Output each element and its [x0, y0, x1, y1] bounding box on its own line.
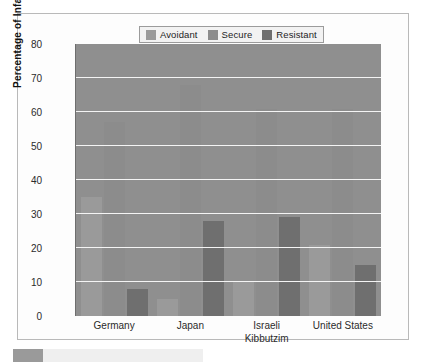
y-tick-label-30: 30 — [12, 209, 42, 220]
bar-avoidant-japan — [157, 299, 178, 316]
gridline-40 — [76, 179, 381, 181]
x-tick-label-united-states: United States — [313, 320, 373, 333]
plot-canvas — [76, 44, 381, 316]
legend-label: Resistant — [276, 29, 317, 40]
gridline-50 — [76, 145, 381, 147]
gridline-10 — [76, 281, 381, 283]
x-tick-label-japan: Japan — [177, 320, 204, 333]
x-tick-line-1: United States — [313, 320, 373, 331]
y-axis-title: Percentage of Infants — [12, 0, 23, 110]
y-tick-label-60: 60 — [12, 107, 42, 118]
x-tick-label-israeli-kibbutzim: IsraeliKibbutzim — [245, 320, 289, 345]
legend-swatch-icon — [146, 30, 156, 40]
gridline-20 — [76, 247, 381, 249]
legend-item-avoidant: Avoidant — [146, 29, 198, 40]
legend-swatch-icon — [262, 30, 272, 40]
bar-resistant-united-states — [355, 265, 376, 316]
gridline-60 — [76, 111, 381, 113]
legend-item-resistant: Resistant — [262, 29, 317, 40]
chart-legend: AvoidantSecureResistant — [139, 26, 324, 43]
gridline-30 — [76, 213, 381, 215]
x-tick-line-1: Israeli — [253, 320, 280, 331]
bar-resistant-germany — [127, 289, 148, 316]
bar-group-germany — [76, 44, 152, 316]
x-tick-label-germany: Germany — [94, 320, 135, 333]
bar-secure-germany — [104, 122, 125, 316]
gridline-70 — [76, 77, 381, 79]
bar-group-united-states — [305, 44, 381, 316]
y-tick-label-70: 70 — [12, 73, 42, 84]
y-tick-label-40: 40 — [12, 175, 42, 186]
bar-group-japan — [152, 44, 228, 316]
bar-resistant-israeli-kibbutzim — [279, 217, 300, 316]
legend-swatch-icon — [208, 30, 218, 40]
caption-bar — [43, 349, 203, 362]
legend-label: Secure — [222, 29, 253, 40]
y-tick-label-80: 80 — [12, 39, 42, 50]
x-tick-line-1: Germany — [94, 320, 135, 331]
bar-avoidant-israeli-kibbutzim — [233, 282, 254, 316]
bar-resistant-japan — [203, 221, 224, 316]
y-tick-label-0: 0 — [12, 311, 42, 322]
legend-item-secure: Secure — [208, 29, 253, 40]
bar-avoidant-germany — [81, 197, 102, 316]
y-tick-label-20: 20 — [12, 243, 42, 254]
caption-swatch — [13, 349, 43, 362]
y-axis-line — [75, 44, 76, 316]
y-tick-label-10: 10 — [12, 277, 42, 288]
figure-frame: AvoidantSecureResistant Percentage of In… — [17, 13, 409, 340]
legend-label: Avoidant — [160, 29, 198, 40]
plot-area — [76, 44, 381, 316]
x-tick-line-1: Japan — [177, 320, 204, 331]
x-tick-line-2: Kibbutzim — [245, 333, 289, 346]
bar-group-israeli-kibbutzim — [229, 44, 305, 316]
y-tick-label-50: 50 — [12, 141, 42, 152]
